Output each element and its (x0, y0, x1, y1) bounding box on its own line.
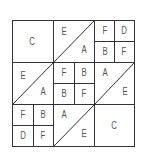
quad-label-br: F (80, 89, 88, 99)
block-r2-c0: F B D F (12, 104, 54, 147)
quad-label-tr: B (39, 110, 47, 120)
quad-label-tl: F (19, 110, 27, 120)
block-label: C (110, 121, 118, 131)
quilt-pattern-grid: C E A F D B F E A F B B F A (12, 20, 135, 147)
diagonal-line (13, 63, 54, 105)
triangle-label-top-left: A (60, 110, 68, 120)
triangle-label-bottom-right: E (121, 87, 129, 97)
triangle-label-top-left: E (19, 71, 27, 81)
block-r0-c0: C (12, 20, 54, 63)
quad-label-br: F (39, 131, 47, 141)
triangle-label-bottom-right: E (80, 129, 88, 139)
block-r2-c1: A E (53, 104, 95, 147)
block-label: C (28, 37, 36, 47)
quad-label-bl: B (101, 47, 109, 57)
triangle-label-top-left: E (60, 27, 68, 37)
quad-label-tr: D (120, 26, 128, 36)
quad-label-br: F (120, 47, 128, 57)
quad-label-tl: F (60, 68, 68, 78)
quad-label-tr: B (80, 68, 88, 78)
block-r1-c0: E A (12, 62, 54, 105)
block-r0-c1: E A (53, 20, 95, 63)
block-r2-c2: C (94, 104, 135, 147)
triangle-label-bottom-right: A (39, 87, 47, 97)
block-r1-c1: F B B F (53, 62, 95, 105)
triangle-label-top-left: A (101, 68, 109, 78)
triangle-label-bottom-right: A (80, 45, 88, 55)
block-r1-c2: A E (94, 62, 135, 105)
quad-label-bl: D (19, 131, 27, 141)
quad-label-bl: B (60, 89, 68, 99)
block-r0-c2: F D B F (94, 20, 135, 63)
quad-label-tl: F (101, 26, 109, 36)
